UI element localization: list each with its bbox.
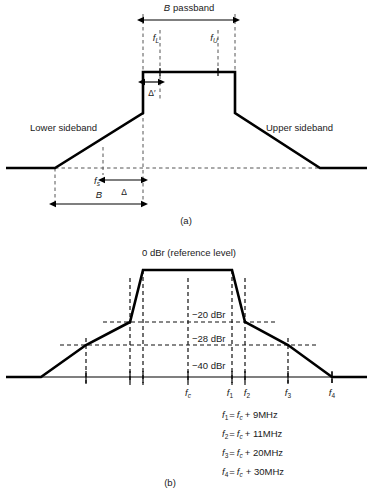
label-f-upper: fU	[210, 32, 218, 44]
label-b-passband: Bpassband	[164, 2, 215, 13]
label-bandwidth-b: B	[96, 189, 103, 200]
label-reference-level: 0 dBr (reference level)	[142, 247, 236, 258]
equation-f1: f1=fc+ 9MHz	[222, 409, 278, 421]
label-lower-sideband: Lower sideband	[30, 122, 97, 133]
spectrum-envelope-a	[6, 72, 367, 168]
panel-b: 0 dBr (reference level) −20 dBr −28 dBr …	[6, 247, 367, 488]
spectrum-mask-figure: Bpassband fL fU Δ′ Lower sideband Upper …	[0, 0, 373, 497]
label-f-2: f2	[244, 387, 251, 399]
label-f-lower: fL	[153, 32, 160, 44]
panel-b-tag: (b)	[164, 477, 176, 488]
label-minus-20-dbr: −20 dBr	[192, 309, 226, 320]
label-f-c: fc	[185, 387, 192, 399]
equation-f4: f4=fc+ 30MHz	[222, 466, 284, 478]
equation-f3: f3=fc+ 20MHz	[222, 447, 283, 459]
panel-a-tag: (a)	[180, 215, 192, 226]
label-minus-40-dbr: −40 dBr	[192, 360, 226, 371]
label-f-4: f4	[329, 387, 336, 399]
emission-mask-curve-b	[6, 270, 367, 377]
equation-f2: f2=fc+ 11MHz	[222, 428, 283, 440]
figure-root: Bpassband fL fU Δ′ Lower sideband Upper …	[0, 0, 373, 497]
label-minus-28-dbr: −28 dBr	[192, 333, 226, 344]
label-f-1: f1	[227, 387, 234, 399]
label-upper-sideband: Upper sideband	[266, 122, 333, 133]
label-f-3: f3	[285, 387, 292, 399]
label-delta-prime: Δ′	[148, 88, 156, 98]
label-delta: Δ	[121, 187, 127, 197]
label-f-s: fs	[94, 175, 101, 187]
panel-a: Bpassband fL fU Δ′ Lower sideband Upper …	[6, 2, 367, 226]
